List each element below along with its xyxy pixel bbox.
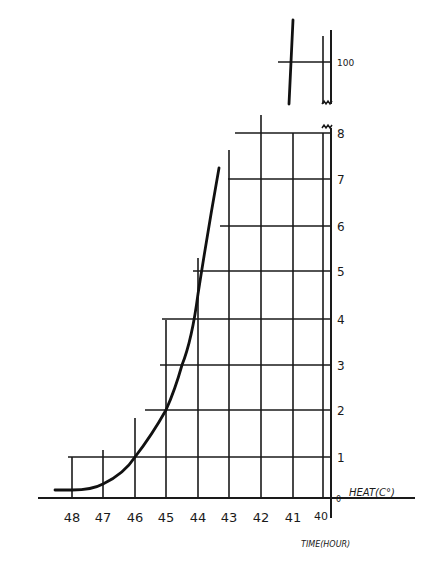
y-tick: 8 xyxy=(337,127,345,141)
x-tick-labels: 48 47 46 45 44 43 42 41 40 xyxy=(64,510,328,525)
axis-break xyxy=(322,101,332,128)
y-tick-labels: 0 1 2 3 4 5 6 7 8 100 xyxy=(336,58,354,504)
y-tick: 2 xyxy=(337,404,345,418)
x-tick: 43 xyxy=(221,510,238,525)
y-tick: 4 xyxy=(337,313,345,327)
x-tick: 45 xyxy=(158,510,175,525)
y-tick: 7 xyxy=(337,173,345,187)
x-axis-title: TIME(HOUR) xyxy=(301,540,350,549)
origin-label: 0 xyxy=(336,495,341,504)
x-tick: 47 xyxy=(95,510,112,525)
y-tick-top: 100 xyxy=(337,58,354,68)
horizontal-grid-lines xyxy=(68,62,331,457)
x-tick: 44 xyxy=(190,510,207,525)
y-axis-title: HEAT(C°) xyxy=(349,487,395,498)
data-curve xyxy=(55,168,219,490)
data-curve-upper xyxy=(289,20,293,104)
y-tick: 5 xyxy=(337,265,345,279)
y-tick: 1 xyxy=(337,451,345,465)
x-tick: 48 xyxy=(64,510,81,525)
y-tick: 3 xyxy=(337,359,345,373)
x-tick: 46 xyxy=(127,510,144,525)
x-tick: 40 xyxy=(314,510,328,523)
y-tick: 6 xyxy=(337,220,345,234)
x-tick: 42 xyxy=(253,510,270,525)
x-tick: 41 xyxy=(285,510,302,525)
heat-time-chart: 0 1 2 3 4 5 6 7 8 100 48 47 46 45 44 43 … xyxy=(0,0,433,566)
